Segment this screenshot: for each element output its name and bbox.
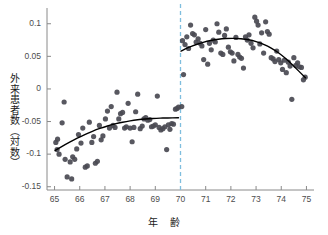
scatter-point xyxy=(130,139,135,144)
y-tick-label: -0.1 xyxy=(26,148,41,158)
scatter-point xyxy=(299,65,304,70)
scatter-point xyxy=(291,55,296,60)
scatter-point xyxy=(55,137,60,142)
y-tick-label: -0.05 xyxy=(22,116,42,126)
x-tick-label: 65 xyxy=(50,194,60,204)
scatter-point xyxy=(214,21,219,26)
scatter-point xyxy=(60,120,65,125)
scatter-point xyxy=(246,32,251,37)
scatter-point xyxy=(105,109,110,114)
chart-figure: 外来患者数（対数） 0.10.050-0.05-0.1-0.15 6566676… xyxy=(0,0,328,235)
scatter-point xyxy=(199,43,204,48)
scatter-point xyxy=(230,50,235,55)
scatter-point xyxy=(87,120,92,125)
scatter-point xyxy=(100,133,105,138)
scatter-point xyxy=(250,45,255,50)
scatter-point xyxy=(140,124,145,129)
scatter-point xyxy=(233,35,238,40)
x-tick-label: 66 xyxy=(75,194,85,204)
scatter-point xyxy=(133,109,138,114)
scatter-points-left xyxy=(53,90,181,182)
scatter-point xyxy=(216,30,221,35)
scatter-point xyxy=(224,26,229,31)
y-tick-label: -0.15 xyxy=(22,181,42,191)
x-axis-label-text: 年 齢 xyxy=(148,217,181,228)
fit-curve-left xyxy=(55,118,178,151)
scatter-point xyxy=(69,176,74,181)
y-tick-label: 0.1 xyxy=(29,18,41,28)
x-tick-label: 73 xyxy=(251,194,261,204)
scatter-point xyxy=(65,174,70,179)
x-tick-label: 75 xyxy=(302,194,312,204)
scatter-point xyxy=(220,52,225,57)
scatter-point xyxy=(209,47,214,52)
scatter-point xyxy=(284,70,289,75)
scatter-point xyxy=(120,110,125,115)
scatter-point xyxy=(267,32,272,37)
scatter-point xyxy=(205,62,210,67)
scatter-point xyxy=(226,45,231,50)
scatter-point xyxy=(91,134,96,139)
scatter-point xyxy=(248,41,253,46)
scatter-point xyxy=(259,30,264,35)
scatter-point xyxy=(74,146,79,151)
scatter-point xyxy=(184,34,189,39)
scatter-point xyxy=(188,22,193,27)
scatter-point xyxy=(68,159,73,164)
scatter-point xyxy=(167,127,172,132)
scatter-point xyxy=(289,97,294,102)
scatter-point xyxy=(231,58,236,63)
scatter-point xyxy=(78,140,83,145)
x-tick-label: 72 xyxy=(226,194,236,204)
scatter-point xyxy=(261,50,266,55)
scatter-point xyxy=(171,122,176,127)
scatter-point xyxy=(241,65,246,70)
scatter-point xyxy=(95,159,100,164)
y-tick-label: 0 xyxy=(36,83,41,93)
x-tick-label: 74 xyxy=(277,194,287,204)
scatter-point xyxy=(181,72,186,77)
scatter-point xyxy=(255,22,260,27)
scatter-point xyxy=(62,99,67,104)
scatter-point xyxy=(109,104,114,109)
scatter-point xyxy=(126,101,131,106)
scatter-plot-canvas: 0.10.050-0.05-0.1-0.15 65666768697071727… xyxy=(0,0,328,235)
scatter-point xyxy=(239,56,244,61)
scatter-point xyxy=(155,94,160,99)
scatter-point xyxy=(63,157,68,162)
scatter-point xyxy=(103,116,108,121)
x-tick-label: 70 xyxy=(176,194,186,204)
scatter-point xyxy=(201,57,206,62)
y-tick-label: 0.05 xyxy=(24,51,41,61)
scatter-point xyxy=(164,147,169,152)
scatter-point xyxy=(112,125,117,130)
scatter-point xyxy=(135,92,140,97)
scatter-point xyxy=(263,19,268,24)
x-tick-label: 67 xyxy=(100,194,110,204)
scatter-point xyxy=(182,42,187,47)
scatter-point xyxy=(179,104,184,109)
scatter-point xyxy=(85,163,90,168)
scatter-point xyxy=(114,90,119,95)
scatter-point xyxy=(196,36,201,41)
scatter-point xyxy=(89,140,94,145)
x-tick-label: 69 xyxy=(151,194,161,204)
scatter-point xyxy=(203,27,208,32)
scatter-point xyxy=(56,152,61,157)
scatter-point xyxy=(80,125,85,130)
x-tick-label: 68 xyxy=(125,194,135,204)
scatter-point xyxy=(147,117,152,122)
x-tick-label: 71 xyxy=(201,194,211,204)
scatter-point xyxy=(131,125,136,130)
scatter-point xyxy=(192,32,197,37)
scatter-point xyxy=(72,157,77,162)
scatter-point xyxy=(116,116,121,121)
x-axis-label: 年 齢 xyxy=(0,212,328,230)
scatter-point xyxy=(222,33,227,38)
